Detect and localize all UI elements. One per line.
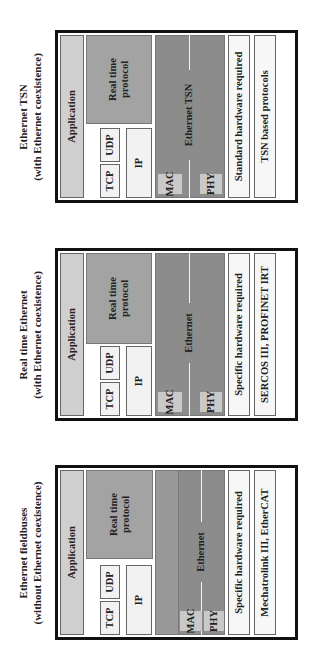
application-layer: Application bbox=[60, 253, 84, 416]
realtime-protocol-layer: Real timeprotocol bbox=[86, 253, 152, 344]
tcp-layer: TCP bbox=[100, 601, 120, 635]
panel-title-ethernet-tsn: Ethernet TSN(with Ethernet coexistence) bbox=[8, 30, 52, 203]
rt-line-1: Real time bbox=[108, 493, 120, 536]
mac-label: MAC bbox=[164, 171, 176, 196]
panel-title-realtime-ethernet: Real time Ethernet(with Ethernet coexist… bbox=[8, 248, 52, 421]
title-line-1: Ethernet fieldbuses bbox=[16, 481, 30, 624]
udp-layer: UDP bbox=[100, 565, 120, 599]
phy-label: PHY bbox=[208, 610, 220, 632]
realtime-protocol-layer: Real timeprotocol bbox=[86, 470, 153, 559]
phy-label: PHY bbox=[205, 173, 217, 195]
title-line-2: (with Ethernet coexistence) bbox=[30, 271, 44, 399]
stack-ethernet-fieldbuses: Application Real timeprotocol TCP UDP IP… bbox=[55, 465, 298, 640]
phy-layer: PHY bbox=[200, 174, 222, 194]
mac-layer: MAC bbox=[180, 611, 202, 631]
udp-layer: UDP bbox=[100, 128, 120, 162]
tcp-layer: TCP bbox=[100, 164, 120, 198]
rt-line-1: Real time bbox=[107, 277, 119, 320]
rt-line-2: protocol bbox=[119, 280, 131, 317]
stack-frame: Application Real timeprotocol TCP UDP IP… bbox=[55, 30, 298, 203]
protocol-examples: Mechatrolink III, EtherCAT bbox=[254, 470, 276, 635]
realtime-protocol-layer: Real timeprotocol bbox=[86, 35, 152, 124]
stack-realtime-ethernet: Application Real timeprotocol TCP UDP IP… bbox=[55, 248, 298, 421]
mac-label: MAC bbox=[164, 389, 176, 414]
panel-title-ethernet-fieldbuses: Ethernet fieldbuses(without Ethernet coe… bbox=[8, 465, 52, 640]
hardware-requirement: Specific hardware required bbox=[228, 470, 250, 635]
ip-layer: IP bbox=[126, 128, 152, 198]
tcp-layer: TCP bbox=[100, 382, 120, 416]
protocol-examples: TSN based protocols bbox=[254, 35, 276, 198]
link-layer-label: Ethernet bbox=[192, 522, 210, 582]
stack-frame: Application Real timeprotocol TCP UDP IP… bbox=[55, 248, 298, 421]
title-line-1: Real time Ethernet bbox=[16, 271, 30, 399]
mac-layer: MAC bbox=[158, 174, 182, 194]
title-line-2: (with Ethernet coexistence) bbox=[30, 53, 44, 181]
rt-line-1: Real time bbox=[107, 58, 119, 101]
stack-frame: Application Real timeprotocol TCP UDP IP… bbox=[55, 465, 298, 640]
application-layer: Application bbox=[60, 35, 84, 198]
phy-layer: PHY bbox=[200, 392, 222, 412]
link-layer-label: Ethernet TSN bbox=[180, 70, 198, 160]
mac-layer: MAC bbox=[158, 392, 182, 412]
ip-layer: IP bbox=[126, 346, 152, 416]
rt-line-2: protocol bbox=[119, 61, 131, 98]
title-line-2: (without Ethernet coexistence) bbox=[30, 481, 44, 624]
udp-layer: UDP bbox=[100, 346, 120, 380]
protocol-examples: SERCOS III, PROFINET IRT bbox=[254, 253, 276, 416]
application-layer: Application bbox=[60, 470, 84, 635]
phy-layer: PHY bbox=[204, 611, 224, 631]
link-layer-label: Ethernet bbox=[180, 303, 198, 363]
rt-line-2: protocol bbox=[120, 496, 132, 533]
hardware-requirement: Standard hardware required bbox=[228, 35, 250, 198]
phy-label: PHY bbox=[205, 391, 217, 413]
stack-ethernet-tsn: Application Real timeprotocol TCP UDP IP… bbox=[55, 30, 298, 203]
title-line-1: Ethernet TSN bbox=[16, 53, 30, 181]
hardware-requirement: Specific hardware required bbox=[228, 253, 250, 416]
ip-layer: IP bbox=[126, 565, 152, 635]
mac-label: MAC bbox=[185, 608, 197, 633]
